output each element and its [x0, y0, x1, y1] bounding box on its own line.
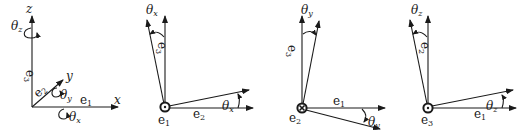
x-label: x — [114, 93, 121, 107]
angle-arc-top-icon — [303, 31, 316, 35]
theta-z-label: θz — [11, 19, 23, 34]
e3-label: e3 — [284, 45, 299, 57]
e3-label: e3 — [421, 113, 433, 128]
rotation-diagram: z x y θz e3 e2 θy e1 θx θx θx e3 e1 e2 — [0, 0, 531, 137]
e2-label: e2 — [417, 42, 432, 54]
z-label: z — [25, 2, 33, 16]
theta-z-top-label: θz — [411, 3, 423, 18]
e1-rotated-axis — [432, 90, 513, 106]
angle-arc-bottom-icon — [238, 94, 240, 108]
e2-rotated-axis — [410, 20, 427, 104]
y-label: y — [65, 69, 73, 83]
angle-arc-top-icon — [150, 32, 164, 37]
e3-label: e3 — [22, 70, 37, 82]
angle-arc-bottom-icon — [362, 109, 366, 122]
e1-label: e1 — [333, 94, 345, 109]
e3-rotated-axis — [303, 21, 319, 104]
panel-rotation-z: θz θz e2 e3 e1 — [410, 3, 516, 128]
theta-y-top-label: θy — [301, 3, 313, 18]
panel-rotation-x: θx θx e3 e1 e2 — [146, 3, 253, 128]
panel-rotation-y: θy θy e3 e2 e1 — [284, 3, 385, 130]
theta-z-bottom-label: θz — [486, 99, 498, 114]
e2-label: e2 — [289, 111, 301, 126]
e2-rotated-axis — [169, 90, 249, 106]
theta-y-bottom-label: θy — [368, 115, 380, 130]
panel-frame: z x y θz e3 e2 θy e1 θx — [11, 2, 121, 125]
rotation-arrow-x-icon — [59, 109, 68, 119]
theta-x-bottom-label: θx — [222, 99, 234, 114]
dot-center-icon — [164, 106, 166, 108]
e2-label: e2 — [193, 107, 205, 122]
theta-x-top-label: θx — [146, 3, 158, 18]
dot-center-icon — [427, 107, 429, 109]
e1-label: e1 — [80, 93, 92, 108]
theta-x-label: θx — [69, 110, 81, 125]
e3-label: e3 — [154, 42, 169, 54]
theta-y-label: θy — [60, 88, 72, 103]
e1-label: e1 — [158, 113, 170, 128]
angle-arc-bottom-icon — [502, 95, 504, 108]
e2-label: e2 — [31, 82, 50, 101]
e1-label: e1 — [474, 107, 486, 122]
rotation-arrow-z-icon — [24, 28, 37, 38]
e3-rotated-axis — [147, 20, 164, 104]
angle-arc-top-icon — [413, 32, 427, 37]
